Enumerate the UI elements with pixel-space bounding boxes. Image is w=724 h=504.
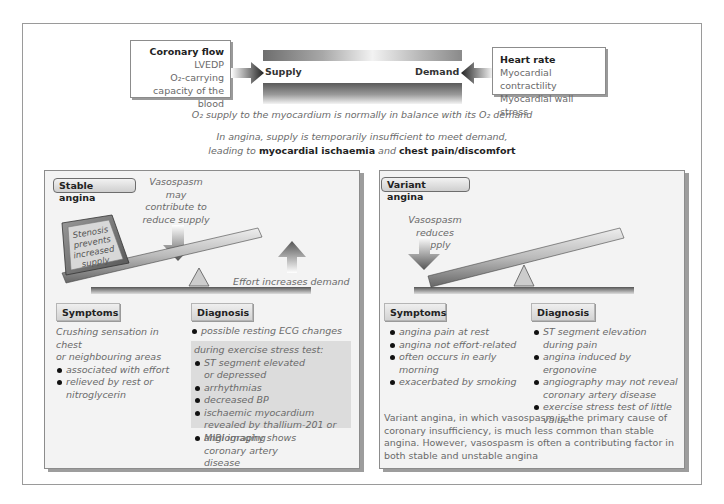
angiography-finding: angiography shows coronary artery diseas…	[194, 432, 314, 470]
angina-text: and	[375, 145, 399, 156]
diagnosis-item: angiography shows coronary artery diseas…	[194, 432, 314, 470]
variant-symptoms-heading: Symptoms	[384, 303, 446, 321]
diagnosis-item: angina induced by ergonovine	[533, 351, 678, 376]
balance-beam	[263, 50, 462, 61]
demand-factor-item: Myocardial contractility	[500, 66, 601, 92]
supply-factor-item: LVEDP	[133, 58, 224, 71]
diagnosis-item: angiography may not reveal coronary arte…	[533, 376, 678, 401]
supply-label: Supply	[265, 66, 302, 77]
stenosis-label: Stenosis prevents increased supply	[67, 223, 119, 270]
balance-base	[263, 83, 462, 104]
demand-arrow-icon	[461, 62, 495, 84]
symptom-item: associated with effort	[56, 364, 181, 377]
supply-factors-box: Coronary flow LVEDP O₂-carrying capacity…	[130, 40, 231, 98]
variant-footnote: Variant angina, in which vasospasm is th…	[384, 412, 680, 462]
stress-test-item: arrhythmias	[194, 382, 348, 395]
symptom-item: exacerbated by smoking	[389, 376, 529, 389]
term-myocardial-ischaemia: myocardial ischaemia	[259, 145, 375, 156]
supply-arrow-icon	[231, 62, 265, 84]
diagnosis-item: possible resting ECG changes	[191, 325, 351, 338]
stress-test-intro: during exercise stress test:	[194, 344, 348, 357]
symptom-item: relieved by rest or nitroglycerin	[56, 376, 156, 401]
variant-symptoms: angina pain at rest angina not effort-re…	[389, 326, 529, 389]
variant-angina-title: Variant angina	[381, 177, 470, 192]
stable-angina-title: Stable angina	[53, 178, 136, 193]
stable-diagnosis-heading: Diagnosis	[191, 303, 253, 321]
supply-factor-primary: Coronary flow	[133, 45, 224, 58]
demand-label: Demand	[415, 66, 459, 77]
variant-diagnosis: ST segment elevation during pain angina …	[533, 326, 678, 426]
supply-factor-item: O₂-carrying capacity of the blood	[133, 71, 224, 110]
symptom-intro: or neighbouring areas	[56, 351, 181, 364]
variant-diagnosis-heading: Diagnosis	[531, 303, 595, 321]
variant-seesaw-illustration	[379, 230, 685, 305]
demand-factor-primary: Heart rate	[500, 53, 601, 66]
angina-text: leading to	[208, 145, 259, 156]
term-chest-pain: chest pain/discomfort	[399, 145, 516, 156]
demand-factors-box: Heart rate Myocardial contractility Myoc…	[492, 47, 606, 95]
angina-statement-line1: In angina, supply is temporarily insuffi…	[130, 131, 594, 142]
symptom-intro: Crushing sensation in chest	[56, 326, 181, 351]
stress-test-box: during exercise stress test: ST segment …	[191, 341, 351, 428]
stress-test-item: ST segment elevated or depressed	[194, 357, 309, 382]
stress-test-item: decreased BP	[194, 394, 348, 407]
symptom-item: angina pain at rest	[389, 326, 529, 339]
symptom-item: often occurs in early morning	[389, 351, 529, 376]
balance-caption: O₂ supply to the myocardium is normally …	[130, 109, 594, 120]
symptom-item: angina not effort-related	[389, 339, 529, 352]
stable-symptoms: Crushing sensation in chest or neighbour…	[56, 326, 181, 401]
effort-note: Effort increases demand	[233, 276, 350, 289]
stable-diagnosis: possible resting ECG changes	[191, 325, 351, 338]
diagnosis-item: ST segment elevation during pain	[533, 326, 678, 351]
angina-statement-line2: leading to myocardial ischaemia and ches…	[130, 145, 594, 156]
stable-symptoms-heading: Symptoms	[56, 303, 120, 321]
